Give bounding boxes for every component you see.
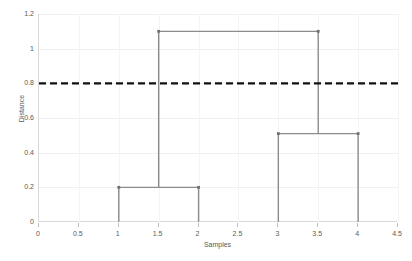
y-tick-label: 0.8	[2, 79, 34, 87]
y-tick-label: 0.4	[2, 149, 34, 157]
threshold-line	[39, 14, 398, 222]
x-tick-mark	[357, 223, 358, 227]
x-tick-label: 1	[103, 229, 133, 238]
x-tick-label: 2	[183, 229, 213, 238]
x-tick-label: 3	[262, 229, 292, 238]
x-tick-mark	[277, 223, 278, 227]
plot-area	[38, 14, 397, 222]
x-tick-mark	[237, 223, 238, 227]
x-tick-mark	[198, 223, 199, 227]
y-tick-label: 0.6	[2, 114, 34, 122]
y-tick-label: 0	[2, 218, 34, 226]
y-tick-label: 1.2	[2, 10, 34, 18]
x-tick-mark	[78, 223, 79, 227]
x-tick-mark	[158, 223, 159, 227]
x-tick-label: 4.5	[382, 229, 412, 238]
x-tick-label: 0.5	[63, 229, 93, 238]
y-tick-label: 0.2	[2, 183, 34, 191]
x-tick-label: 3.5	[302, 229, 332, 238]
x-tick-label: 1.5	[143, 229, 173, 238]
x-axis-title: Samples	[38, 241, 397, 248]
x-tick-mark	[397, 223, 398, 227]
x-tick-mark	[118, 223, 119, 227]
y-tick-label: 1	[2, 45, 34, 53]
x-tick-label: 4	[342, 229, 372, 238]
x-tick-label: 0	[23, 229, 53, 238]
x-tick-mark	[38, 223, 39, 227]
y-axis-title: Distance	[18, 79, 25, 139]
gridline-vertical	[398, 14, 399, 222]
x-tick-label: 2.5	[222, 229, 252, 238]
dendrogram-chart: Distance Samples 00.20.40.60.811.2 00.51…	[0, 0, 412, 261]
x-tick-mark	[317, 223, 318, 227]
